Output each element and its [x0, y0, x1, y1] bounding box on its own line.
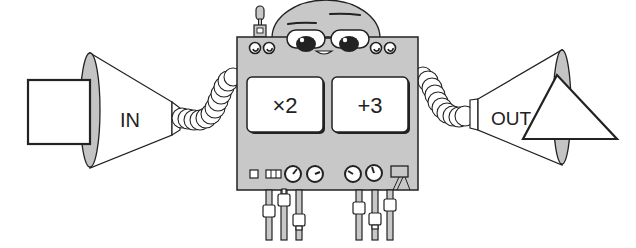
switch-bank-icon: [266, 170, 281, 178]
right-arm-coil: [414, 67, 475, 127]
output-label: OUT: [491, 108, 532, 129]
input-square-shape: [28, 80, 90, 144]
dial-4-icon: [366, 165, 382, 181]
dial-3-icon: [345, 166, 361, 182]
operation-label-1: ×2: [272, 93, 297, 118]
left-arm-coil: [172, 68, 242, 130]
dial-1-icon: [285, 166, 301, 182]
input-label: IN: [120, 109, 140, 131]
function-machine-diagram: IN OUT: [0, 0, 636, 248]
legs: [263, 189, 396, 240]
operation-label-2: +3: [357, 93, 382, 118]
dial-2-icon: [307, 166, 323, 182]
antenna: [254, 6, 266, 37]
